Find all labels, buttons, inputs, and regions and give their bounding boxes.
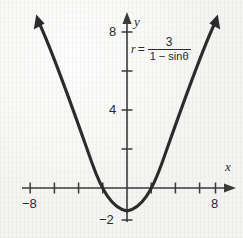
curve-left-arrowhead (34, 15, 45, 30)
x-tick-label-8: 8 (211, 197, 218, 210)
x-tick-label--8: −8 (22, 197, 37, 210)
x-axis-arrowhead (224, 183, 236, 192)
equation-fraction: 3 1 − sinθ (148, 36, 191, 62)
y-axis-arrowhead (122, 12, 131, 24)
graph-figure: x y −8 8 8 4 −2 r = 3 1 − sinθ (0, 0, 243, 238)
equation-annotation: r = 3 1 − sinθ (131, 36, 191, 62)
x-axis (22, 183, 236, 194)
y-tick-label--2: −2 (99, 213, 114, 226)
y-axis-label: y (134, 15, 140, 28)
equation-denominator: 1 − sinθ (148, 50, 191, 62)
x-axis-label: x (225, 160, 231, 173)
y-tick-label-4: 4 (109, 103, 116, 116)
y-tick-label-8: 8 (109, 25, 116, 38)
curve-right-arrowhead (209, 15, 220, 30)
equation-equals-sign: = (138, 43, 145, 55)
equation-lhs: r (131, 43, 136, 55)
equation-numerator: 3 (163, 36, 176, 49)
